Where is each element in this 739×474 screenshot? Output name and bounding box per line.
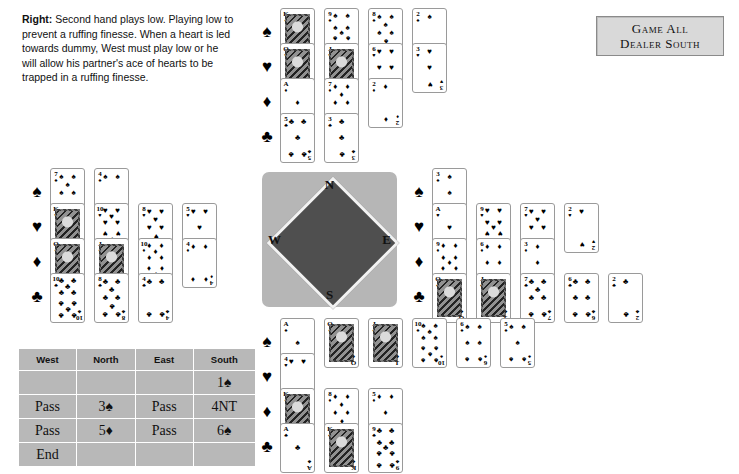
pip-heart: ♥ xyxy=(103,207,108,215)
bidding-header-west: West xyxy=(19,349,77,371)
compass-label-west: W xyxy=(268,232,281,248)
court-card-face xyxy=(329,324,354,362)
pip-heart: ♥ xyxy=(485,207,490,215)
bidding-cell: 4NT xyxy=(193,395,255,419)
pip-club: ♣ xyxy=(623,310,628,318)
pip-spade: ♠ xyxy=(427,13,431,21)
pip-heart: ♥ xyxy=(115,219,120,227)
bidding-row: End xyxy=(19,443,256,467)
pip-diamond: ♦ xyxy=(383,115,387,123)
pip-club: ♣ xyxy=(573,294,578,302)
pip-spade: ♠ xyxy=(433,322,437,330)
pip-diamond: ♦ xyxy=(160,242,164,250)
pip-heart: ♥ xyxy=(529,224,534,232)
pip-club: ♣ xyxy=(71,277,76,285)
pip-club: ♣ xyxy=(535,286,540,294)
pip-club: ♣ xyxy=(339,134,344,142)
card-pips: ♣♣ xyxy=(616,277,635,319)
card-4-diamond: 4♦4♦♦♦♦♦ xyxy=(182,238,217,288)
pip-spade: ♠ xyxy=(447,189,451,197)
pip-diamond: ♦ xyxy=(485,243,489,251)
pip-diamond: ♦ xyxy=(346,409,350,417)
pip-heart: ♥ xyxy=(579,240,584,248)
compass-label-east: E xyxy=(382,232,391,248)
pip-club: ♣ xyxy=(65,283,70,291)
pip-diamond: ♦ xyxy=(160,254,164,262)
bidding-header-south: South xyxy=(193,349,255,371)
pip-diamond: ♦ xyxy=(383,409,387,417)
pip-diamond: ♦ xyxy=(441,264,445,272)
card-j-spade: J♠J♠ xyxy=(368,318,403,368)
vulnerability-line-1: Game All xyxy=(632,21,688,36)
pip-heart: ♥ xyxy=(159,224,164,232)
pip-heart: ♥ xyxy=(377,48,382,56)
pip-club: ♣ xyxy=(573,310,578,318)
court-card-face xyxy=(481,279,506,317)
card-10-spade: 10♠10♠♠♠♠♠♠♠♠♠♠♠ xyxy=(412,318,447,368)
bidding-cell xyxy=(135,443,193,467)
bidding-cell: 6♠ xyxy=(193,419,255,443)
pip-diamond: ♦ xyxy=(346,83,350,91)
pip-club: ♣ xyxy=(529,310,534,318)
pip-club: ♣ xyxy=(103,310,108,318)
pip-diamond: ♦ xyxy=(390,393,394,401)
pip-spade: ♠ xyxy=(333,12,337,20)
card-pips: ♥♥ xyxy=(572,207,591,249)
pip-spade: ♠ xyxy=(115,173,119,181)
pip-heart: ♥ xyxy=(485,219,490,227)
pip-heart: ♥ xyxy=(159,208,164,216)
pip-diamond: ♦ xyxy=(454,242,458,250)
bidding-cell xyxy=(193,443,255,467)
suit-symbol-heart: ♥ xyxy=(258,58,276,75)
compass-rose: N S W E xyxy=(262,172,397,307)
pip-club: ♣ xyxy=(585,294,590,302)
pip-spade: ♠ xyxy=(295,339,299,347)
pip-club: ♣ xyxy=(623,278,628,286)
pip-spade: ♠ xyxy=(427,328,431,336)
pip-spade: ♠ xyxy=(433,344,437,352)
pip-spade: ♠ xyxy=(65,181,69,189)
pip-heart: ♥ xyxy=(529,208,534,216)
court-card-face xyxy=(329,429,354,467)
pip-club: ♣ xyxy=(377,461,382,469)
suit-symbol-diamond: ♦ xyxy=(410,253,428,270)
pip-heart: ♥ xyxy=(579,208,584,216)
vulnerability-box: Game All Dealer South xyxy=(596,16,724,56)
card-5-spade: 5♠5♠♠♠♠♠♠ xyxy=(500,318,535,368)
pip-club: ♣ xyxy=(71,299,76,307)
pip-diamond: ♦ xyxy=(441,254,445,262)
pip-heart: ♥ xyxy=(191,208,196,216)
pip-club: ♣ xyxy=(529,278,534,286)
pip-diamond: ♦ xyxy=(346,393,350,401)
pip-club: ♣ xyxy=(295,444,300,452)
pip-spade: ♠ xyxy=(339,29,343,37)
pip-heart: ♥ xyxy=(301,358,306,366)
pip-club: ♣ xyxy=(115,310,120,318)
pip-spade: ♠ xyxy=(345,12,349,20)
pip-club: ♣ xyxy=(389,439,394,447)
bidding-cell: Pass xyxy=(135,419,193,443)
pip-diamond: ♦ xyxy=(204,275,208,283)
suit-symbol-spade: ♠ xyxy=(410,183,428,200)
pip-heart: ♥ xyxy=(541,208,546,216)
pip-club: ♣ xyxy=(383,444,388,452)
pip-club: ♣ xyxy=(377,449,382,457)
pip-club: ♣ xyxy=(71,311,76,319)
pip-spade: ♠ xyxy=(465,323,469,331)
pip-heart: ♥ xyxy=(115,229,120,237)
bidding-header-row: WestNorthEastSouth xyxy=(19,349,256,371)
bidding-cell: 3♠ xyxy=(76,395,135,419)
pip-club: ♣ xyxy=(59,299,64,307)
pip-club: ♣ xyxy=(59,277,64,285)
card-6-spade: 6♠6♠♠♠♠♠♠♠ xyxy=(456,318,491,368)
card-q-spade: Q♠Q♠ xyxy=(324,318,359,368)
pip-diamond: ♦ xyxy=(339,91,343,99)
suit-symbol-club: ♣ xyxy=(410,288,428,305)
pip-diamond: ♦ xyxy=(204,243,208,251)
pip-club: ♣ xyxy=(159,278,164,286)
pip-heart: ♥ xyxy=(497,219,502,227)
pip-club: ♣ xyxy=(59,311,64,319)
suit-symbol-club: ♣ xyxy=(258,128,276,145)
card-pips: ♣♣♣♣♣♣♣♣♣ xyxy=(376,427,395,469)
pip-club: ♣ xyxy=(109,286,114,294)
